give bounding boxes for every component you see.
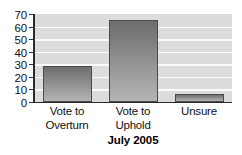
x-label-vote-to-overturn: Vote to Overturn bbox=[34, 105, 100, 132]
bar-vote-to-uphold bbox=[109, 20, 158, 102]
x-axis-line bbox=[33, 102, 232, 104]
x-label-line-1: Vote to bbox=[100, 105, 166, 119]
y-tick-label-40: 40 bbox=[0, 48, 27, 59]
y-axis-tick-labels: 70 60 50 40 30 20 10 0 bbox=[0, 10, 27, 102]
x-label-line-2: Overturn bbox=[34, 119, 100, 133]
x-label-line-1: Vote to bbox=[34, 105, 100, 119]
y-tick-label-30: 30 bbox=[0, 60, 27, 71]
x-label-unsure: Unsure bbox=[166, 105, 232, 119]
y-tick-label-0: 0 bbox=[0, 98, 27, 109]
bar-vote-to-overturn bbox=[43, 66, 92, 102]
y-tick-label-10: 10 bbox=[0, 85, 27, 96]
y-tick-label-60: 60 bbox=[0, 23, 27, 34]
x-label-line-2: Uphold bbox=[100, 119, 166, 133]
y-tick-label-70: 70 bbox=[0, 10, 27, 21]
plot-area bbox=[34, 14, 232, 102]
y-tick-label-20: 20 bbox=[0, 73, 27, 84]
x-axis-title: July 2005 bbox=[34, 134, 232, 146]
x-label-vote-to-uphold: Vote to Uphold bbox=[100, 105, 166, 132]
y-axis-line bbox=[33, 14, 35, 103]
bar-chart: 70 60 50 40 30 20 10 0 Vote to Overturn bbox=[0, 0, 242, 155]
x-label-line-1: Unsure bbox=[166, 105, 232, 119]
y-tick-label-50: 50 bbox=[0, 35, 27, 46]
x-axis-category-labels: Vote to Overturn Vote to Uphold Unsure bbox=[34, 105, 232, 135]
